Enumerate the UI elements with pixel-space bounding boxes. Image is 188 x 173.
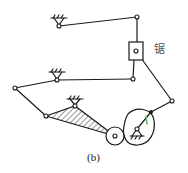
joint-crank-end: [149, 110, 153, 114]
joint-cam-pivot: [135, 127, 139, 131]
link-top: [59, 17, 137, 26]
joint-right: [170, 99, 174, 103]
joint-tri-top: [73, 104, 77, 108]
saw-label: 锯: [154, 40, 165, 56]
link-left-upper: [15, 80, 57, 88]
figure-caption: (b): [87, 151, 100, 163]
link-crank: [137, 112, 151, 129]
link-left-down: [15, 88, 46, 116]
link-middle: [57, 79, 133, 80]
link-vertical-lower: [133, 60, 134, 79]
joint-left: [13, 86, 17, 90]
joint-slider-pin: [134, 49, 138, 53]
joint-top-right: [135, 15, 139, 19]
cam-accent: [146, 116, 147, 124]
joint-slider-bottom: [131, 77, 135, 81]
hatched-triangle-link: [46, 106, 115, 136]
joint-mid-ground: [55, 78, 59, 82]
link-right: [151, 101, 172, 112]
mechanism-diagram: [0, 0, 188, 173]
joint-top-ground: [57, 24, 61, 28]
joint-tri-left: [44, 114, 48, 118]
joint-small-gear: [113, 134, 117, 138]
